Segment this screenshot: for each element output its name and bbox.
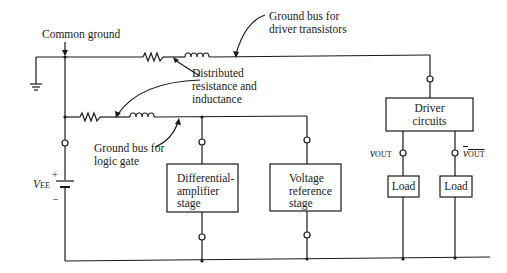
ground-bus-logic-label: Ground bus for logic gate: [94, 142, 164, 168]
distributed-label: Distributed resistance and inductance: [192, 67, 257, 106]
vout-bar-label: vOUT: [463, 147, 485, 161]
vee-label: VEE: [33, 178, 50, 192]
diff-amp-block: Differential- amplifier stage: [177, 172, 234, 210]
ground-bus-driver-label: Ground bus for driver transistors: [269, 10, 347, 36]
circuit-diagram: Common ground Ground bus for driver tran…: [0, 0, 507, 273]
battery-minus: –: [53, 192, 58, 205]
common-ground-label: Common ground: [42, 28, 120, 41]
voltage-ref-block: Voltage reference stage: [289, 172, 332, 210]
driver-block: Driver circuits: [386, 102, 473, 127]
load-1-block: Load: [388, 180, 419, 193]
vout-label: vOUT: [370, 147, 392, 161]
battery-plus: +: [52, 168, 58, 181]
load-2-block: Load: [440, 180, 472, 193]
